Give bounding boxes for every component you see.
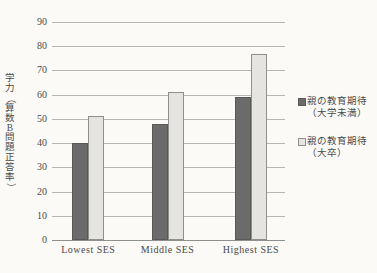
y-tick-label: 70 <box>16 64 47 76</box>
bar-series1-highest-ses <box>235 97 251 240</box>
legend-label-line: 親の教育期待 <box>307 136 367 148</box>
legend-label-series1: 親の教育期待 （大学未満） <box>307 96 367 119</box>
x-category-label: Lowest SES <box>61 244 115 255</box>
bar-series2-lowest-ses <box>88 116 104 240</box>
y-tick-label: 50 <box>16 113 47 125</box>
y-tick-label: 0 <box>16 234 47 246</box>
y-tick-label: 80 <box>16 40 47 52</box>
gridline <box>52 22 285 23</box>
x-axis-labels: Lowest SESMiddle SESHighest SES <box>52 244 285 258</box>
bar-chart-figure: 学力（算数B問題正答率） 0102030405060708090 Lowest … <box>0 0 377 273</box>
y-tick-label: 20 <box>16 186 47 198</box>
y-axis-title-char: 率 <box>5 173 15 183</box>
y-tick-label: 90 <box>16 16 47 28</box>
gridline <box>52 46 285 47</box>
y-axis-title-char: 力 <box>5 84 15 94</box>
legend-label-line: （大学未満） <box>307 108 367 120</box>
bar-series2-middle-ses <box>168 92 184 240</box>
y-tick-label: 60 <box>16 89 47 101</box>
legend-entry-series2: 親の教育期待 （大卒） <box>298 136 376 159</box>
legend: 親の教育期待 （大学未満） 親の教育期待 （大卒） <box>298 96 376 176</box>
legend-label-series2: 親の教育期待 （大卒） <box>307 136 367 159</box>
y-axis-title-char: （ <box>5 94 15 104</box>
y-tick-label: 10 <box>16 210 47 222</box>
y-tick-label: 40 <box>16 137 47 149</box>
y-tick-label: 30 <box>16 161 47 173</box>
bar-series1-lowest-ses <box>72 143 88 240</box>
bar-series1-middle-ses <box>152 124 168 240</box>
legend-label-line: 親の教育期待 <box>307 96 367 108</box>
bar-series2-highest-ses <box>251 54 267 241</box>
x-category-label: Middle SES <box>141 244 195 255</box>
legend-label-line: （大卒） <box>307 148 367 160</box>
x-category-label: Highest SES <box>223 244 279 255</box>
plot-area <box>52 22 285 240</box>
y-axis-title-char: ） <box>5 183 15 193</box>
x-axis-line <box>52 240 285 241</box>
y-axis-title: 学力（算数B問題正答率） <box>3 74 17 193</box>
legend-swatch-dark-icon <box>298 98 306 106</box>
y-axis-ticks: 0102030405060708090 <box>16 22 47 240</box>
legend-entry-series1: 親の教育期待 （大学未満） <box>298 96 376 119</box>
legend-swatch-light-icon <box>298 138 306 146</box>
